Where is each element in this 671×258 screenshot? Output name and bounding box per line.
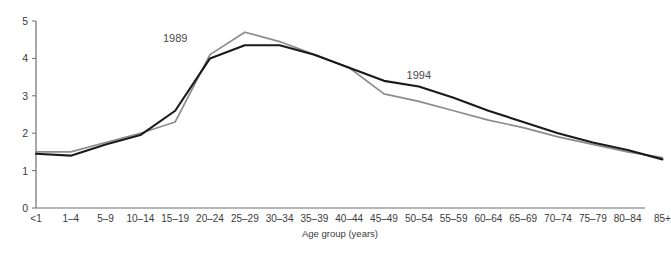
series-line-1994 — [36, 45, 662, 159]
x-tick-label: 10–14 — [126, 213, 154, 224]
x-tick-label: 65–69 — [509, 213, 537, 224]
x-tick-label: 5–9 — [97, 213, 114, 224]
y-tick-label: 4 — [22, 52, 28, 64]
y-tick-label: 3 — [22, 90, 28, 102]
x-tick-label: 60–64 — [474, 213, 502, 224]
x-tick-label: 35–39 — [300, 213, 328, 224]
x-tick-label: 30–34 — [266, 213, 294, 224]
x-tick-label: <1 — [30, 213, 41, 224]
x-tick-label: 40–44 — [335, 213, 363, 224]
x-tick-label: 25–29 — [231, 213, 259, 224]
series-annotation-1994: 1994 — [407, 69, 431, 81]
x-tick-label: 1–4 — [62, 213, 79, 224]
x-axis-title: Age group (years) — [302, 228, 378, 239]
y-tick-label: 5 — [22, 15, 28, 27]
x-tick-label: 20–24 — [196, 213, 224, 224]
x-tick-label: 75–79 — [579, 213, 607, 224]
x-tick-label: 70–74 — [544, 213, 572, 224]
x-tick-label: 80–84 — [614, 213, 642, 224]
y-tick-label: 0 — [22, 202, 28, 214]
x-tick-label: 85+ — [654, 213, 671, 224]
x-tick-label: 45–49 — [370, 213, 398, 224]
x-tick-label: 50–54 — [405, 213, 433, 224]
y-tick-label: 1 — [22, 165, 28, 177]
series-annotation-1989: 1989 — [163, 32, 187, 44]
x-tick-label: 55–59 — [440, 213, 468, 224]
x-tick-label: 15–19 — [161, 213, 189, 224]
y-tick-label: 2 — [22, 127, 28, 139]
series-polylines — [36, 32, 662, 159]
